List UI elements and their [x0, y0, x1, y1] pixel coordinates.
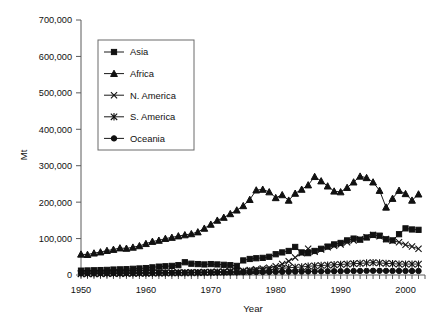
- marker-triangle: [279, 191, 286, 197]
- marker-square: [280, 250, 285, 255]
- marker-triangle: [318, 178, 325, 184]
- marker-square: [163, 264, 168, 269]
- marker-circle: [208, 270, 213, 275]
- marker-circle: [286, 269, 291, 274]
- legend-label-asia: Asia: [130, 46, 149, 57]
- marker-triangle: [246, 196, 253, 202]
- marker-x: [292, 254, 298, 260]
- marker-triangle: [266, 189, 273, 195]
- marker-circle: [241, 270, 246, 275]
- marker-circle: [351, 268, 356, 273]
- marker-circle: [260, 269, 265, 274]
- marker-circle: [143, 270, 148, 275]
- y-tick-label: 100,000: [39, 234, 72, 244]
- x-tick-label: 1960: [136, 285, 156, 295]
- marker-circle: [78, 270, 83, 275]
- marker-square: [221, 262, 226, 267]
- marker-triangle: [396, 187, 403, 193]
- marker-square: [267, 254, 272, 259]
- marker-square: [234, 263, 239, 268]
- y-tick-label: 500,000: [39, 88, 72, 98]
- marker-circle: [98, 270, 103, 275]
- marker-circle: [150, 270, 155, 275]
- marker-square: [260, 255, 265, 260]
- marker-triangle: [201, 225, 208, 231]
- marker-square: [111, 49, 116, 54]
- marker-triangle: [298, 186, 305, 192]
- marker-circle: [299, 269, 304, 274]
- marker-square: [241, 258, 246, 263]
- marker-square: [176, 263, 181, 268]
- marker-circle: [357, 268, 362, 273]
- marker-square: [286, 248, 291, 253]
- marker-circle: [364, 268, 369, 273]
- marker-circle: [124, 270, 129, 275]
- x-axis-title: Year: [243, 303, 263, 314]
- marker-circle: [156, 270, 161, 275]
- marker-square: [396, 232, 401, 237]
- y-tick-label: 700,000: [39, 15, 72, 25]
- marker-square: [208, 261, 213, 266]
- marker-square: [189, 261, 194, 266]
- marker-circle: [396, 268, 401, 273]
- series-line: [81, 176, 419, 254]
- marker-circle: [370, 268, 375, 273]
- marker-x: [409, 243, 415, 249]
- marker-circle: [85, 270, 90, 275]
- marker-square: [273, 252, 278, 257]
- marker-square: [403, 226, 408, 231]
- x-tick-label: 1950: [71, 285, 91, 295]
- marker-triangle: [415, 191, 422, 197]
- y-tick-label: 0: [67, 270, 72, 280]
- marker-x: [286, 258, 292, 264]
- marker-circle: [409, 268, 414, 273]
- marker-circle: [189, 270, 194, 275]
- marker-square: [409, 227, 414, 232]
- marker-x: [402, 242, 408, 248]
- line-chart: 0100,000200,000300,000400,000500,000600,…: [0, 0, 437, 334]
- marker-circle: [234, 270, 239, 275]
- y-tick-label: 600,000: [39, 52, 72, 62]
- x-tick-label: 1990: [330, 285, 350, 295]
- marker-circle: [267, 269, 272, 274]
- legend-label-africa: Africa: [130, 68, 155, 79]
- marker-circle: [228, 270, 233, 275]
- marker-circle: [338, 268, 343, 273]
- x-tick-label: 2000: [395, 285, 415, 295]
- marker-square: [156, 264, 161, 269]
- marker-circle: [221, 270, 226, 275]
- series-africa: [78, 173, 422, 258]
- marker-circle: [383, 268, 388, 273]
- legend-label-n-america: N. America: [130, 90, 177, 101]
- marker-circle: [416, 268, 421, 273]
- marker-triangle: [311, 173, 318, 179]
- marker-square: [150, 265, 155, 270]
- marker-triangle: [143, 240, 150, 246]
- x-tick-label: 1970: [201, 285, 221, 295]
- marker-circle: [325, 269, 330, 274]
- marker-circle: [104, 270, 109, 275]
- marker-triangle: [233, 207, 240, 213]
- marker-triangle: [207, 221, 214, 227]
- marker-circle: [273, 269, 278, 274]
- marker-circle: [318, 269, 323, 274]
- marker-square: [293, 244, 298, 249]
- marker-circle: [111, 136, 116, 141]
- marker-x: [415, 246, 421, 252]
- marker-circle: [403, 268, 408, 273]
- chart-legend: AsiaAfricaN. AmericaS. AmericaOceania: [98, 40, 194, 150]
- marker-triangle: [370, 179, 377, 185]
- marker-circle: [111, 270, 116, 275]
- marker-circle: [176, 270, 181, 275]
- y-tick-label: 400,000: [39, 125, 72, 135]
- marker-square: [416, 227, 421, 232]
- y-axis-title: Mt: [18, 149, 29, 160]
- y-tick-label: 200,000: [39, 198, 72, 208]
- marker-circle: [331, 269, 336, 274]
- x-tick-label: 1980: [265, 285, 285, 295]
- legend-label-oceania: Oceania: [130, 133, 166, 144]
- marker-circle: [163, 270, 168, 275]
- marker-triangle: [136, 242, 143, 248]
- marker-circle: [390, 268, 395, 273]
- marker-square: [195, 261, 200, 266]
